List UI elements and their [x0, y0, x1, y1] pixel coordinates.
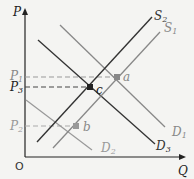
- curve-label-d3: D3: [155, 139, 171, 154]
- point-a-label: a: [123, 70, 130, 84]
- curve-s2: [37, 17, 152, 142]
- axes: [22, 8, 186, 160]
- price-guides: [25, 77, 117, 126]
- origin-label: O: [15, 160, 24, 173]
- curve-d1: [60, 25, 165, 127]
- curve-s1: [53, 32, 160, 148]
- y-axis-arrow-icon: [22, 8, 28, 15]
- point-b-marker: [73, 123, 79, 129]
- point-c-marker: [87, 84, 93, 90]
- curve-label-d1: D1: [171, 125, 187, 140]
- y-axis-label: P: [12, 5, 22, 19]
- point-b-label: b: [83, 120, 91, 134]
- curve-label-d2: D2: [100, 141, 116, 156]
- point-a-marker: [114, 74, 120, 80]
- supply-demand-diagram: P Q O a b c P1 P3 P2 S2 S1 D1 D2 D3: [0, 0, 194, 179]
- curve-label-s1: S1: [164, 21, 177, 36]
- x-axis-label: Q: [178, 164, 188, 178]
- point-c-label: c: [96, 83, 103, 97]
- price-label-p2: P2: [9, 119, 23, 134]
- x-axis-arrow-icon: [179, 154, 186, 160]
